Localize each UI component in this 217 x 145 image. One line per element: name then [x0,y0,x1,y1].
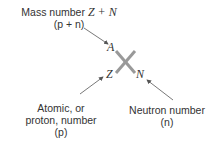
atomic-label-line2: proton, number [25,114,96,126]
neutron-number-label: Neutron number (n) [120,104,214,128]
mass-label-pn: (p + n) [54,18,85,30]
neutron-label-line2: (n) [161,116,174,128]
atomic-label-line3: (p) [55,126,68,138]
mass-number-label: Mass number Z + N (p + n) [14,6,124,30]
symbol-Z: Z [106,67,113,82]
mass-label-formula: Z + N [88,5,117,19]
atomic-label-line1: Atomic, or [37,102,84,114]
arrow-atomic [80,77,103,94]
arrow-mass [84,28,108,44]
neutron-label-line1: Neutron number [129,104,205,116]
atomic-number-label: Atomic, or proton, number (p) [20,102,102,138]
cross-x-icon [116,51,135,73]
symbol-N: N [136,67,144,82]
mass-label-text: Mass number [21,6,88,18]
arrow-neutron [147,80,173,100]
symbol-A: A [107,40,114,55]
